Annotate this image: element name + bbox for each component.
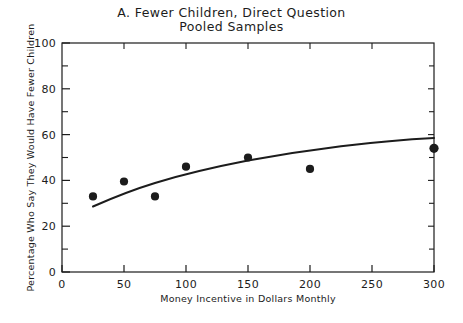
y-tick-label-100: 100 <box>34 37 56 50</box>
y-tick-label-40: 40 <box>41 174 56 187</box>
chart-svg: 0 20 40 60 80 100 0 50 100 150 200 250 3… <box>0 0 463 323</box>
y-axis-title: Percentage Who Say They Would Have Fewer… <box>25 24 36 292</box>
y-tick-label-60: 60 <box>41 129 56 142</box>
data-point <box>306 165 314 173</box>
x-tick-label-0: 0 <box>58 278 65 291</box>
x-tick-label-250: 250 <box>361 278 383 291</box>
data-point <box>89 192 97 200</box>
y-axis-minor-ticks <box>62 66 68 249</box>
x-axis-title: Money Incentive in Dollars Monthly <box>160 293 336 304</box>
x-axis-ticks <box>62 265 434 272</box>
x-tick-label-100: 100 <box>175 278 197 291</box>
x-axis-top-ticks <box>124 43 372 49</box>
y-tick-label-20: 20 <box>41 220 56 233</box>
x-tick-label-50: 50 <box>117 278 132 291</box>
fitted-curve <box>93 85 434 207</box>
x-tick-label-200: 200 <box>299 278 321 291</box>
y-tick-label-0: 0 <box>49 266 56 279</box>
data-point <box>429 144 438 153</box>
data-points <box>89 144 439 201</box>
x-tick-labels: 0 50 100 150 200 250 300 <box>58 278 445 291</box>
data-point <box>182 163 190 171</box>
data-point <box>244 153 252 161</box>
data-point <box>151 192 159 200</box>
x-tick-label-300: 300 <box>423 278 445 291</box>
fitted-curve-path <box>93 138 434 207</box>
figure-panel: A. Fewer Children, Direct Question Poole… <box>0 0 463 323</box>
y-tick-labels: 0 20 40 60 80 100 <box>34 37 56 279</box>
y-tick-label-80: 80 <box>41 83 56 96</box>
data-point <box>120 177 128 185</box>
right-axis-ticks <box>428 66 434 249</box>
x-tick-label-150: 150 <box>237 278 259 291</box>
